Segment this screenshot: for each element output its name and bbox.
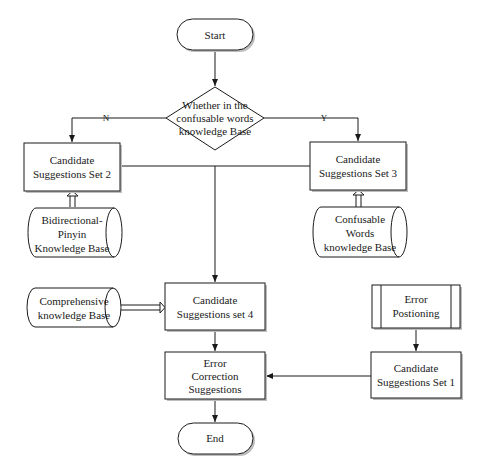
confusable-kb-label-line2: Words: [346, 227, 374, 239]
error-positioning-box: Error Postioning: [372, 285, 462, 330]
set4-label-line1: Candidate: [193, 294, 238, 306]
candidate-set-1-box: Candidate Suggestions Set 1: [371, 352, 463, 400]
error-pos-label-line2: Postioning: [392, 307, 440, 319]
comprehensive-knowledge-base-cylinder: Comprehensive knowledge Base: [27, 288, 121, 327]
edge-decision-no: [72, 118, 166, 142]
error-pos-label-line1: Error: [404, 293, 428, 305]
edge-decision-yes: [264, 118, 358, 141]
pinyin-kb-label-line1: Bidirectional-: [41, 214, 102, 226]
end-label: End: [206, 432, 224, 444]
decision-label-line2: confusable words: [176, 112, 253, 124]
confusable-kb-label-line3: knowledge Base: [324, 241, 397, 253]
start-terminator: Start: [177, 19, 255, 52]
set2-label-line2: Suggestions Set 2: [33, 168, 111, 180]
pinyin-kb-label-line3: Knowledge Base: [35, 242, 110, 254]
set1-label-line1: Candidate: [394, 362, 439, 374]
confusable-kb-label-line1: Confusable: [335, 213, 385, 225]
pinyin-kb-label-line2: Pinyin: [58, 228, 87, 240]
start-label: Start: [205, 29, 226, 41]
set1-label-line2: Suggestions Set 1: [377, 376, 455, 388]
correction-label-line1: Error: [203, 357, 227, 369]
decision-label-line1: Whether in the: [182, 99, 247, 111]
double-arrow-comprehensive-to-set4: [121, 302, 165, 313]
edge-label-no: N: [103, 113, 110, 123]
candidate-set-3-box: Candidate Suggestions Set 3: [310, 142, 408, 192]
candidate-set-4-box: Candidate Suggestions set 4: [165, 283, 267, 332]
flowchart-canvas: N Y Start Whether in the confusable word…: [0, 0, 483, 474]
double-arrow-pinyin-to-set2: [67, 191, 78, 207]
error-correction-box: Error Correction Suggestions: [165, 352, 267, 401]
decision-label-line3: knowledge Base: [179, 125, 252, 137]
set3-label-line2: Suggestions Set 3: [319, 167, 398, 179]
set2-label-line1: Candidate: [50, 154, 95, 166]
comprehensive-kb-label-line2: knowledge Base: [38, 309, 111, 321]
double-arrow-confusable-to-set3: [353, 190, 364, 207]
decision-diamond: Whether in the confusable words knowledg…: [166, 87, 264, 150]
correction-label-line3: Suggestions: [188, 383, 241, 395]
set4-label-line2: Suggestions set 4: [177, 308, 254, 320]
set3-label-line1: Candidate: [336, 153, 381, 165]
end-terminator: End: [178, 423, 255, 456]
pinyin-knowledge-base-cylinder: Bidirectional- Pinyin Knowledge Base: [28, 208, 122, 257]
candidate-set-2-box: Candidate Suggestions Set 2: [24, 143, 122, 193]
comprehensive-kb-label-line1: Comprehensive: [39, 295, 108, 307]
confusable-knowledge-base-cylinder: Confusable Words knowledge Base: [313, 207, 407, 257]
edge-label-yes: Y: [321, 113, 328, 123]
correction-label-line2: Correction: [191, 370, 239, 382]
